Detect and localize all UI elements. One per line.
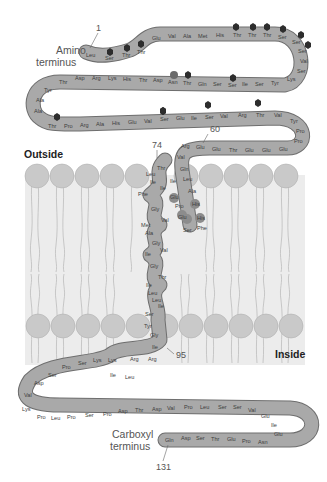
svg-text:Lys: Lys bbox=[93, 357, 102, 363]
svg-text:Ser: Ser bbox=[78, 360, 87, 366]
svg-text:Gly: Gly bbox=[150, 332, 159, 338]
svg-text:Ile: Ile bbox=[191, 115, 197, 121]
svg-text:Ala: Ala bbox=[145, 230, 154, 236]
position-1-label: 1 bbox=[96, 23, 101, 33]
svg-text:Pro: Pro bbox=[296, 128, 305, 134]
svg-text:Tyr: Tyr bbox=[271, 80, 279, 86]
hexagon-icon bbox=[255, 99, 261, 107]
svg-text:Glu: Glu bbox=[196, 144, 205, 150]
position-131-label: 131 bbox=[156, 462, 171, 472]
svg-text:Glu: Glu bbox=[245, 147, 254, 153]
svg-text:Glu: Glu bbox=[176, 115, 185, 121]
svg-text:Val: Val bbox=[177, 154, 185, 160]
inside-label: Inside bbox=[275, 348, 306, 360]
svg-text:Val: Val bbox=[161, 217, 169, 223]
svg-text:Pro: Pro bbox=[67, 414, 76, 420]
amino-terminus-label: Amino bbox=[56, 44, 86, 56]
svg-text:Thr: Thr bbox=[59, 79, 68, 85]
svg-text:Glu: Glu bbox=[261, 413, 270, 419]
svg-text:Thr: Thr bbox=[137, 49, 146, 55]
svg-text:Lys: Lys bbox=[108, 357, 117, 363]
svg-text:Phe: Phe bbox=[197, 225, 207, 231]
svg-text:Ser: Ser bbox=[298, 48, 307, 54]
svg-text:Val: Val bbox=[248, 407, 256, 413]
svg-text:Gln: Gln bbox=[165, 437, 174, 443]
svg-text:Asp: Asp bbox=[152, 406, 162, 412]
glycophorin-diagram: Amino terminus Outside Inside Carboxyl t… bbox=[0, 0, 327, 482]
svg-text:Asp: Asp bbox=[34, 380, 44, 386]
position-74-label: 74 bbox=[152, 140, 162, 150]
svg-text:Ala: Ala bbox=[36, 97, 45, 103]
svg-text:Arg: Arg bbox=[130, 356, 139, 362]
svg-text:Pro: Pro bbox=[37, 414, 46, 420]
svg-text:Gly: Gly bbox=[151, 206, 160, 212]
svg-text:Glu: Glu bbox=[178, 214, 187, 220]
svg-text:Arg: Arg bbox=[148, 356, 157, 362]
svg-text:Ala: Ala bbox=[34, 108, 43, 114]
svg-text:Ala: Ala bbox=[188, 188, 197, 194]
svg-text:Ser: Ser bbox=[145, 311, 154, 317]
svg-text:Lys: Lys bbox=[287, 76, 296, 82]
svg-text:Pro: Pro bbox=[175, 203, 184, 209]
svg-text:Thr: Thr bbox=[139, 77, 148, 83]
svg-text:Ser: Ser bbox=[183, 227, 192, 233]
svg-text:Ile: Ile bbox=[146, 282, 152, 288]
svg-text:Val: Val bbox=[300, 58, 308, 64]
svg-text:Arg: Arg bbox=[92, 75, 101, 81]
svg-text:Met: Met bbox=[141, 222, 151, 228]
svg-text:Val: Val bbox=[160, 247, 168, 253]
svg-text:His: His bbox=[192, 201, 200, 207]
svg-text:Pro: Pro bbox=[62, 364, 71, 370]
svg-text:Ser: Ser bbox=[255, 81, 264, 87]
svg-text:Ile: Ile bbox=[242, 81, 248, 87]
svg-text:Leu: Leu bbox=[146, 171, 155, 177]
svg-text:Thr: Thr bbox=[48, 123, 57, 129]
svg-text:Val: Val bbox=[274, 112, 282, 118]
svg-text:Ser: Ser bbox=[85, 412, 94, 418]
svg-text:Gln: Gln bbox=[180, 166, 189, 172]
svg-text:Thr: Thr bbox=[183, 80, 192, 86]
svg-text:Glu: Glu bbox=[227, 436, 236, 442]
svg-text:Pro: Pro bbox=[184, 404, 193, 410]
svg-text:Thr: Thr bbox=[233, 32, 242, 38]
svg-text:Pro: Pro bbox=[103, 411, 112, 417]
svg-text:His: His bbox=[216, 32, 224, 38]
svg-text:His: His bbox=[123, 76, 131, 82]
svg-text:Glu: Glu bbox=[170, 194, 179, 200]
svg-text:Ile: Ile bbox=[145, 251, 151, 257]
svg-text:Asn: Asn bbox=[258, 439, 268, 445]
svg-text:Ser: Ser bbox=[292, 39, 301, 45]
svg-text:Val: Val bbox=[220, 113, 228, 119]
svg-text:Thr: Thr bbox=[158, 274, 167, 280]
svg-text:Leu: Leu bbox=[183, 176, 192, 182]
svg-text:Arg: Arg bbox=[80, 122, 89, 128]
svg-text:Ile: Ile bbox=[158, 303, 164, 309]
svg-text:Ser: Ser bbox=[278, 34, 287, 40]
svg-text:Ser: Ser bbox=[213, 81, 222, 87]
svg-text:Ser: Ser bbox=[297, 68, 306, 74]
svg-text:Ile: Ile bbox=[110, 372, 116, 378]
svg-text:Ser: Ser bbox=[105, 55, 114, 61]
svg-text:Asp: Asp bbox=[181, 435, 191, 441]
svg-text:Thr: Thr bbox=[135, 407, 144, 413]
svg-text:Phe: Phe bbox=[138, 191, 148, 197]
hexagon-icon bbox=[205, 101, 211, 109]
svg-text:Gln: Gln bbox=[198, 81, 207, 87]
svg-text:Ile: Ile bbox=[150, 179, 156, 185]
svg-text:His: His bbox=[112, 120, 120, 126]
svg-text:Asp: Asp bbox=[153, 77, 163, 83]
amino-terminus-label-2: terminus bbox=[36, 56, 76, 68]
svg-text:Thr: Thr bbox=[122, 52, 131, 58]
svg-text:Val: Val bbox=[167, 405, 175, 411]
svg-text:Glu: Glu bbox=[262, 147, 271, 153]
svg-text:Ala: Ala bbox=[96, 121, 105, 127]
svg-text:Glu: Glu bbox=[128, 119, 137, 125]
svg-text:Glu: Glu bbox=[152, 35, 161, 41]
svg-text:Val: Val bbox=[144, 118, 152, 124]
svg-text:Asp: Asp bbox=[118, 408, 128, 414]
svg-text:Asp: Asp bbox=[75, 75, 85, 81]
svg-text:His: His bbox=[197, 215, 205, 221]
svg-text:Ile: Ile bbox=[152, 344, 158, 350]
svg-text:Ser: Ser bbox=[196, 435, 205, 441]
svg-text:Val: Val bbox=[168, 33, 176, 39]
